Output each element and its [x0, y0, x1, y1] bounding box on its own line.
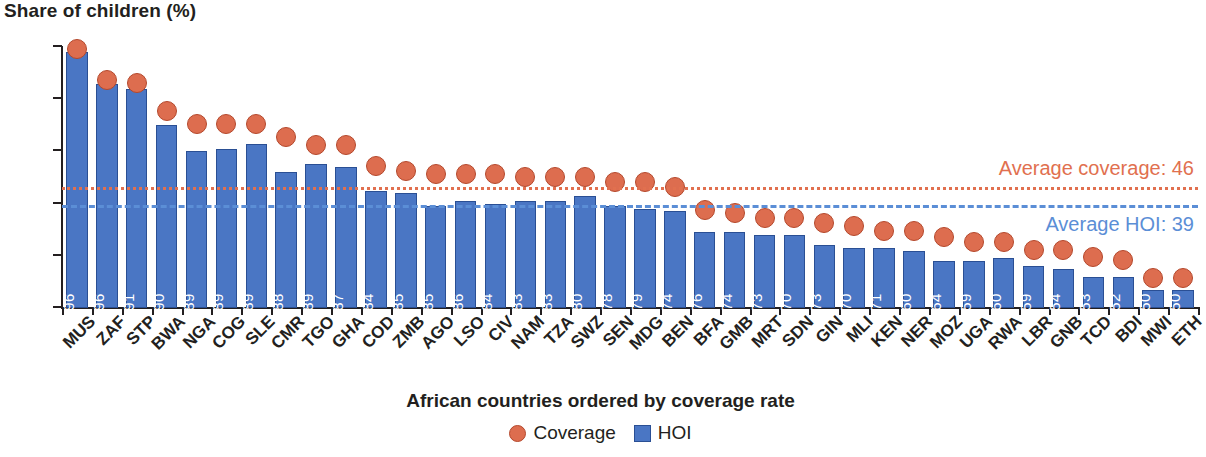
bar: 50 [1142, 290, 1164, 308]
coverage-dot [366, 156, 386, 176]
bar-value-label: 89 [209, 293, 226, 310]
x-category-label-text: TCD [1078, 312, 1117, 351]
coverage-dot [814, 213, 834, 233]
coverage-dot [784, 208, 804, 228]
legend-item-coverage: Coverage [509, 422, 615, 444]
bar: 52 [1113, 277, 1135, 308]
bar-value-label: 88 [269, 293, 286, 310]
bar-value-label: 87 [329, 293, 346, 310]
bar: 50 [1172, 290, 1194, 308]
average-coverage-line [62, 187, 1198, 190]
bar-value-label: 96 [60, 293, 77, 310]
coverage-dot [575, 167, 595, 187]
coverage-dot [127, 73, 147, 93]
bar-value-label: 70 [777, 293, 794, 310]
y-tick-mark [53, 149, 62, 151]
bar-value-label: 71 [867, 293, 884, 310]
y-axis-line [61, 46, 63, 309]
bar: 83 [545, 201, 567, 308]
bar: 96 [66, 52, 88, 308]
bar-value-label: 73 [748, 293, 765, 310]
bar-value-label: 86 [449, 293, 466, 310]
bar: 60 [993, 258, 1015, 308]
bar-value-label: 90 [150, 293, 167, 310]
coverage-marker-icon [509, 425, 526, 442]
bar: 54 [1053, 269, 1075, 308]
bar-value-label: 89 [239, 293, 256, 310]
coverage-dot [874, 221, 894, 241]
hoi-marker-icon [634, 425, 651, 442]
bar-value-label: 96 [90, 293, 107, 310]
x-category-label-text: GIN [812, 312, 848, 348]
coverage-dot [276, 127, 296, 147]
bar: 89 [246, 144, 268, 308]
bar-value-label: 84 [478, 293, 495, 310]
coverage-dot [306, 135, 326, 155]
coverage-dot [904, 221, 924, 241]
coverage-dot [336, 135, 356, 155]
bar-value-label: 78 [598, 293, 615, 310]
x-category-label-text: LSO [450, 312, 489, 351]
bar: 89 [186, 151, 208, 308]
coverage-dot [485, 164, 505, 184]
bar-value-label: 59 [1017, 293, 1034, 310]
coverage-dot [187, 114, 207, 134]
bar-value-label: 74 [658, 293, 675, 310]
coverage-dot [934, 227, 954, 247]
bar: 70 [843, 248, 865, 308]
bar-value-label: 85 [419, 293, 436, 310]
bar-value-label: 70 [837, 293, 854, 310]
y-tick-mark [53, 202, 62, 204]
bar-value-label: 89 [180, 293, 197, 310]
coverage-dot [426, 164, 446, 184]
bar: 71 [873, 248, 895, 308]
coverage-dot [157, 101, 177, 121]
bar-value-label: 74 [718, 293, 735, 310]
bar: 86 [455, 201, 477, 308]
legend-label-coverage: Coverage [533, 422, 615, 444]
average-hoi-line [62, 205, 1198, 208]
bar-value-label: 64 [927, 293, 944, 310]
y-axis-title: Share of children (%) [4, 0, 196, 22]
bar: 73 [754, 235, 776, 308]
bar: 74 [724, 232, 746, 308]
coverage-dot [456, 164, 476, 184]
legend-item-hoi: HOI [634, 422, 692, 444]
bar: 53 [1083, 277, 1105, 308]
bar-value-label: 73 [807, 293, 824, 310]
y-tick-mark [53, 45, 62, 47]
x-category-label-text: ETH [1168, 312, 1206, 350]
coverage-dot [545, 167, 565, 187]
bar: 79 [634, 209, 656, 308]
bar-value-label: 52 [1106, 293, 1123, 310]
coverage-dot [1053, 240, 1073, 260]
coverage-dot [844, 216, 864, 236]
bar-value-label: 53 [1076, 293, 1093, 310]
bar-value-label: 89 [299, 293, 316, 310]
bar: 59 [963, 261, 985, 308]
bar-value-label: 50 [1166, 293, 1183, 310]
bar: 73 [814, 245, 836, 308]
bar: 85 [425, 206, 447, 308]
x-tick-mark [1198, 307, 1200, 315]
coverage-dot [1143, 268, 1163, 288]
bar: 80 [574, 196, 596, 308]
x-category-label-text: BEN [658, 312, 698, 352]
x-category-label-text: MWI [1137, 312, 1176, 351]
bar-value-label: 54 [1046, 293, 1063, 310]
bar: 89 [216, 149, 238, 308]
coverage-dot [515, 167, 535, 187]
legend: Coverage HOI [0, 422, 1201, 444]
bar: 70 [784, 235, 806, 308]
coverage-dot [755, 208, 775, 228]
coverage-dot [994, 232, 1014, 252]
plot-area: 020406080100 969691908989898889878485858… [62, 46, 1198, 308]
bar: 59 [1023, 266, 1045, 308]
bar: 60 [903, 251, 925, 308]
x-category-label-text: LBR [1018, 312, 1057, 351]
coverage-dot [1024, 240, 1044, 260]
bar: 96 [96, 84, 118, 308]
bar-value-label: 76 [688, 293, 705, 310]
coverage-dot [246, 114, 266, 134]
